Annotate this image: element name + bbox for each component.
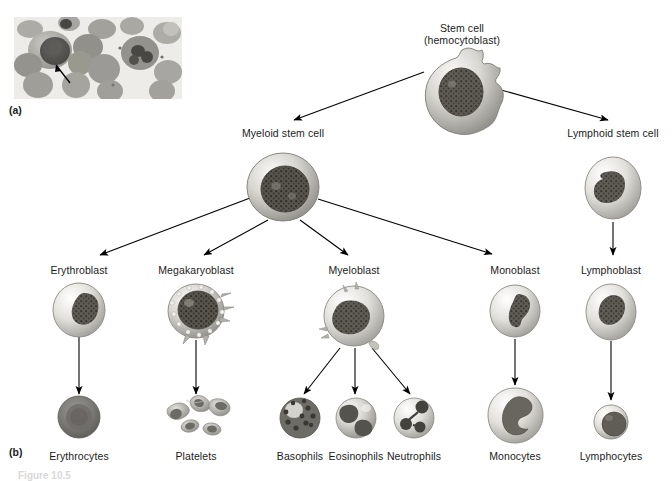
label-text: Lymphoid stem cell [567, 127, 658, 139]
label-text: Erythrocytes [49, 450, 109, 462]
cell-lymphoid-stem-cell [585, 157, 641, 219]
label-text: Erythroblast [50, 264, 107, 276]
label-stem-cell: Stem cell(hemocytoblast) [424, 22, 500, 46]
label-erythrocytes: Erythrocytes [49, 450, 109, 462]
label-text-secondary: (hemocytoblast) [424, 34, 500, 46]
label-text: Basophils [277, 450, 323, 462]
cell-erythroblast [53, 283, 105, 337]
label-monocytes: Monocytes [489, 450, 541, 462]
label-lymphoid-stem-cell: Lymphoid stem cell [567, 127, 658, 139]
cell-erythrocytes [58, 396, 100, 438]
cell-myeloblast [319, 282, 384, 350]
label-monoblast: Monoblast [490, 264, 539, 276]
hematopoiesis-figure: (a) [0, 0, 672, 481]
label-text: Megakaryoblast [158, 264, 234, 276]
label-text: Monocytes [489, 450, 541, 462]
label-myeloid-stem-cell: Myeloid stem cell [242, 127, 324, 139]
label-text: Myeloid stem cell [242, 127, 324, 139]
label-eosinophils: Eosinophils [329, 450, 384, 462]
label-platelets: Platelets [175, 450, 216, 462]
label-text: Myeloblast [328, 264, 379, 276]
cell-illustration-layer [0, 0, 672, 481]
label-text: Stem cell [440, 22, 484, 34]
label-basophils: Basophils [277, 450, 323, 462]
cell-stem-cell [425, 48, 503, 134]
label-text: Lymphocytes [580, 450, 643, 462]
label-text: Monoblast [490, 264, 539, 276]
figure-caption: Figure 10.5 [18, 470, 71, 481]
label-myeloblast: Myeloblast [328, 264, 379, 276]
cell-monoblast [490, 285, 540, 337]
cell-neutrophils [394, 398, 434, 438]
cell-basophils [280, 398, 320, 438]
label-text: Eosinophils [329, 450, 384, 462]
cell-myeloid-stem-cell [247, 153, 319, 221]
label-lymphocytes: Lymphocytes [580, 450, 643, 462]
cell-platelets [167, 396, 230, 437]
cell-megakaryoblast [168, 284, 234, 345]
label-text: Neutrophils [387, 450, 441, 462]
label-erythroblast: Erythroblast [50, 264, 107, 276]
cell-monocytes [488, 388, 543, 443]
label-text: Lymphoblast [581, 264, 641, 276]
label-lymphoblast: Lymphoblast [581, 264, 641, 276]
label-megakaryoblast: Megakaryoblast [158, 264, 234, 276]
label-text: Platelets [175, 450, 216, 462]
cell-eosinophils [336, 398, 376, 438]
label-neutrophils: Neutrophils [387, 450, 441, 462]
cell-lymphocytes [594, 405, 628, 439]
panel-tag-b: (b) [9, 446, 22, 458]
cell-lymphoblast [586, 284, 636, 340]
